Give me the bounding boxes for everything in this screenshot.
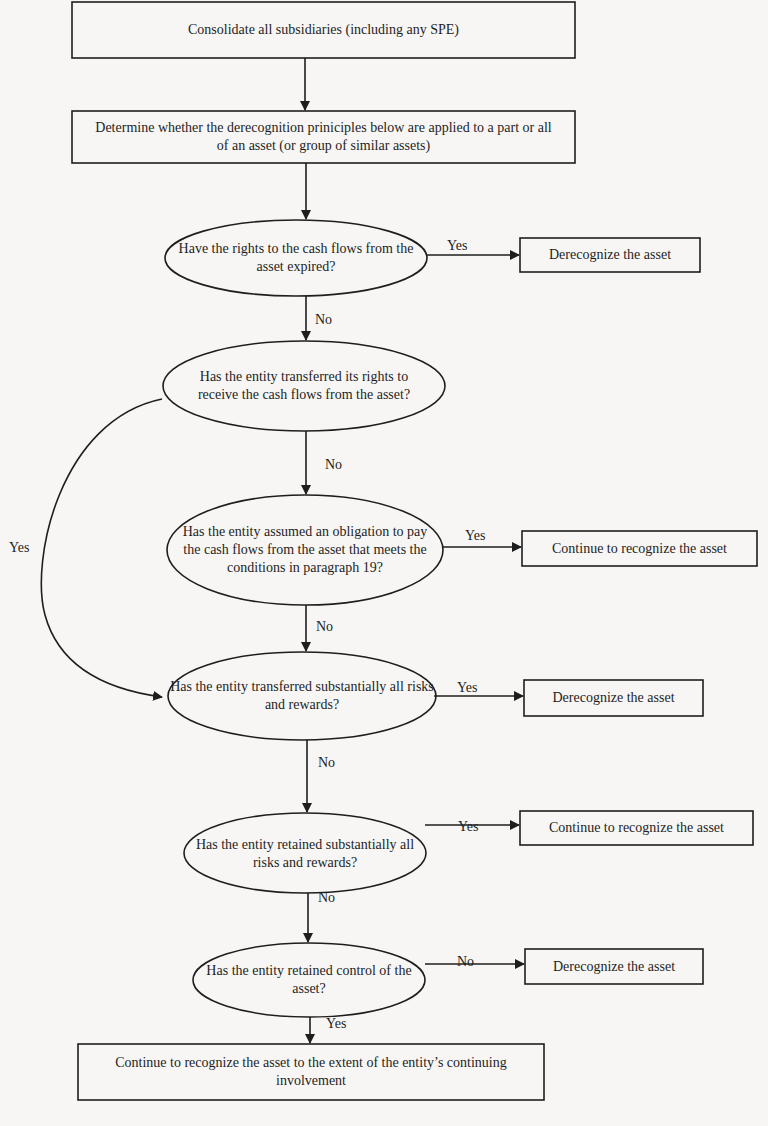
continue-text-1: Continue to recognize the asset (522, 531, 757, 566)
label-q2-no: No (325, 457, 342, 473)
consolidate-text: Consolidate all subsidiaries (including … (72, 2, 575, 58)
rights-expired-text: Have the rights to the cash flows from t… (165, 230, 427, 286)
continuing-involvement-text: Continue to recognize the asset to the e… (78, 1044, 544, 1100)
retained-risks-text: Has the entity retained substantially al… (184, 826, 426, 882)
label-q4-yes: Yes (457, 680, 477, 696)
derecognize-text-2: Derecognize the asset (524, 680, 703, 716)
transferred-risks-text: Has the entity transferred substantially… (168, 668, 436, 724)
label-q3-no: No (316, 619, 333, 635)
edge-q2-q4-curve (41, 399, 162, 697)
derecognize-text-3: Derecognize the asset (525, 949, 703, 984)
derecognize-text-1: Derecognize the asset (520, 238, 700, 272)
retained-control-text: Has the entity retained control of the a… (193, 952, 425, 1008)
label-q4-no: No (318, 755, 335, 771)
label-q2-yes-curve: Yes (9, 540, 29, 556)
label-q1-yes: Yes (447, 238, 467, 254)
label-q6-no: No (457, 954, 474, 970)
label-q5-yes: Yes (458, 819, 478, 835)
assumed-obligation-text: Has the entity assumed an obligation to … (172, 520, 438, 580)
label-q3-yes: Yes (465, 528, 485, 544)
transferred-rights-text: Has the entity transferred its rights to… (175, 358, 433, 414)
label-q6-yes: Yes (326, 1016, 346, 1032)
continue-text-2: Continue to recognize the asset (520, 811, 753, 845)
determine-text: Determine whether the derecognition prin… (72, 111, 575, 163)
label-q5-no: No (318, 890, 335, 906)
label-q1-no: No (315, 312, 332, 328)
